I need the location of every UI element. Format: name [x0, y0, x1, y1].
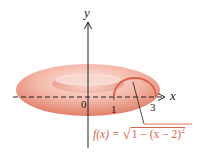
function-formula: f(x) = √1 − (x − 2)2 — [93, 126, 185, 141]
origin-label: 0 — [81, 99, 87, 110]
y-axis-label: y — [84, 6, 90, 19]
tick-label-1: 1 — [111, 104, 117, 115]
radicand-text: 1 − (x − 2) — [132, 128, 181, 140]
exponent: 2 — [181, 126, 185, 135]
formula-prefix: f(x) = — [93, 128, 122, 140]
x-axis-label: x — [170, 89, 176, 102]
radicand: 1 − (x − 2)2 — [131, 127, 185, 140]
sqrt-symbol: √ — [122, 126, 130, 142]
tick-label-3: 3 — [150, 102, 156, 113]
